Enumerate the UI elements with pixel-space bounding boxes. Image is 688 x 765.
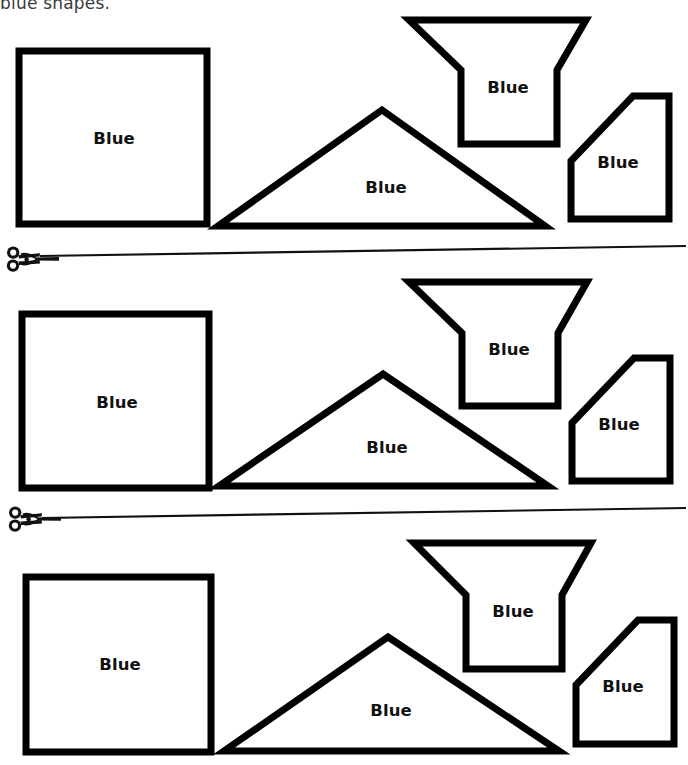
shape-label: Blue	[492, 602, 534, 621]
shape-label: Blue	[366, 438, 408, 457]
shape-label: Blue	[370, 701, 412, 720]
scissors-icon	[9, 506, 61, 531]
shape-pentagon[interactable]: Blue	[576, 620, 674, 744]
shape-label: Blue	[487, 78, 529, 97]
row-1: Blue Blue Blue Blue	[19, 20, 669, 226]
shape-label: Blue	[598, 415, 640, 434]
shapes-canvas: Blue Blue Blue Blue	[0, 0, 688, 765]
shape-label: Blue	[365, 178, 407, 197]
cut-line-dash	[42, 508, 686, 518]
worksheet-page: blue shapes. Blue Blue Blue Blue	[0, 0, 688, 765]
cut-line-1	[7, 246, 686, 272]
shape-pentagon[interactable]: Blue	[572, 358, 670, 481]
row-3: Blue Blue Blue Blue	[26, 543, 674, 752]
shape-label: Blue	[93, 129, 135, 148]
shape-label: Blue	[99, 655, 141, 674]
row-2: Blue Blue Blue Blue	[22, 282, 670, 488]
shape-square[interactable]: Blue	[19, 51, 207, 224]
shape-label: Blue	[597, 153, 639, 172]
shape-label: Blue	[488, 340, 530, 359]
shape-pentagon[interactable]: Blue	[571, 96, 669, 219]
cut-line-dash	[40, 246, 686, 256]
shape-funnel-hexagon[interactable]: Blue	[414, 543, 591, 669]
shape-label: Blue	[602, 677, 644, 696]
shape-funnel-hexagon[interactable]: Blue	[409, 20, 586, 144]
shape-square[interactable]: Blue	[22, 314, 209, 488]
shape-square[interactable]: Blue	[26, 577, 211, 752]
shape-funnel-hexagon[interactable]: Blue	[409, 282, 587, 406]
scissors-icon	[7, 246, 59, 271]
shape-label: Blue	[96, 393, 138, 412]
cut-line-2	[9, 506, 686, 531]
